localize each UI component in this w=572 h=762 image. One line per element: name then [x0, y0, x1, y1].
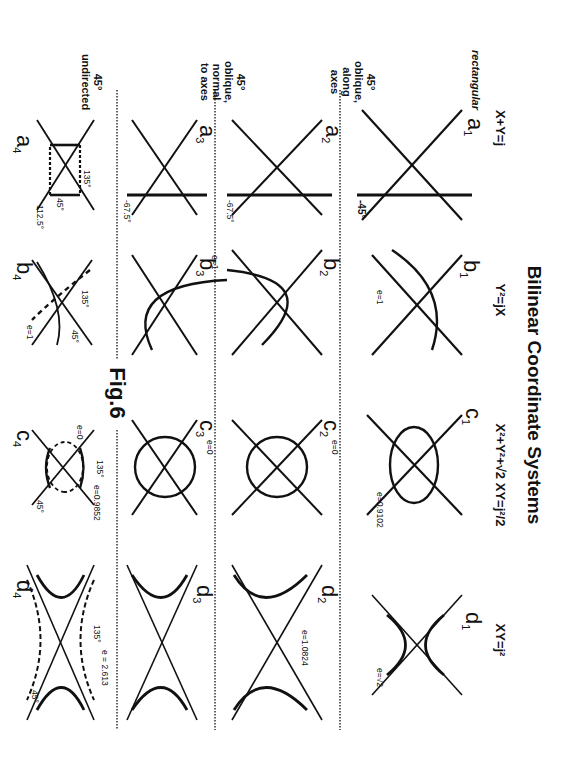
- d4-eccentricity: e = 2.613: [100, 650, 110, 686]
- c4-angle-45: 45°: [35, 500, 45, 513]
- panel-c3: [132, 420, 197, 515]
- panel-a2: [227, 120, 332, 215]
- c4-eccentricity-inner: e=0: [75, 425, 85, 440]
- svg-text:45°: 45°: [235, 74, 247, 91]
- a4-angle-45: 45°: [55, 198, 65, 211]
- panel-d3-label: d3: [191, 585, 217, 603]
- b4-angle-45: 45°: [70, 330, 80, 343]
- equation-a: X+Y=j: [493, 110, 508, 146]
- svg-text:axes: axes: [329, 70, 341, 94]
- figure-canvas: Bilinear Coordinate Systems X+Y=j Y²=jX …: [0, 0, 572, 762]
- equation-c: X²+Y²+√2 XY=j²/2: [493, 424, 508, 527]
- row-label-4: 45° undirected: [80, 54, 104, 110]
- b4-angle-135: 135°: [80, 290, 90, 308]
- panel-a3-label: a3: [194, 125, 220, 143]
- c2-eccentricity: e=0: [330, 440, 340, 455]
- panel-b1-label: b1: [458, 260, 484, 278]
- c4-angle-135: 135°: [95, 460, 105, 478]
- panel-c4-label: c4: [11, 430, 37, 447]
- panel-a3: [127, 120, 207, 215]
- a3-angle: -67.5°: [122, 200, 132, 223]
- c4-eccentricity-outer: e=0.9852: [92, 485, 102, 521]
- panel-c2: [232, 420, 322, 515]
- figure-title: Bilinear Coordinate Systems: [524, 266, 545, 525]
- svg-text:along: along: [341, 67, 353, 96]
- c1-eccentricity: e=0.9102: [375, 492, 385, 528]
- svg-text:45°: 45°: [365, 74, 377, 91]
- svg-text:undirected: undirected: [80, 54, 92, 110]
- panel-a4: [37, 120, 94, 210]
- svg-text:oblique,: oblique,: [223, 61, 235, 103]
- panel-a1-label: a1: [462, 118, 488, 136]
- svg-text:to axes: to axes: [199, 63, 211, 101]
- d2-eccentricity: e=1.0824: [300, 630, 310, 666]
- panel-d2-label: d2: [316, 585, 342, 603]
- panel-b4-label: b4: [11, 262, 37, 280]
- svg-text:normal: normal: [211, 64, 223, 101]
- a1-angle: -45°: [356, 200, 367, 218]
- panel-b2: [227, 250, 322, 355]
- panel-b3-label: b3: [194, 258, 220, 276]
- panel-d1-label: d1: [460, 612, 486, 630]
- panel-a1: [357, 110, 472, 220]
- figure-caption: Fig.6: [105, 367, 130, 418]
- row-label-1: rectangular: [470, 50, 482, 111]
- svg-text:oblique,: oblique,: [353, 61, 365, 103]
- panel-c1-label: c1: [460, 408, 486, 425]
- a4-angle-135: 135°: [82, 170, 92, 188]
- row-label-2: 45° oblique, along axes: [329, 61, 377, 103]
- svg-text:45°: 45°: [92, 74, 104, 91]
- panel-a2-label: a2: [320, 125, 346, 143]
- b1-eccentricity: e=1: [375, 290, 385, 305]
- panel-c3-label: c3: [194, 420, 220, 437]
- d1-eccentricity: e=√2: [375, 668, 385, 687]
- c3-eccentricity: e=0: [205, 440, 215, 455]
- equation-b: Y²=jX: [493, 284, 508, 317]
- panel-c4: [32, 430, 94, 505]
- d4-angle-135: 135°: [92, 625, 102, 643]
- d4-angle-45: 45°: [30, 690, 40, 703]
- row-label-3: 45° oblique, normal to axes: [199, 61, 247, 103]
- panel-d3: [127, 565, 197, 720]
- equation-d: XY=j²: [493, 624, 508, 658]
- b4-eccentricity: e=1: [25, 325, 35, 340]
- panel-c2-label: c2: [318, 420, 344, 437]
- a2-angle: -67.5°: [225, 200, 235, 223]
- a4-angle-112: 112.5°: [35, 205, 45, 229]
- panel-a4-label: a4: [11, 135, 37, 153]
